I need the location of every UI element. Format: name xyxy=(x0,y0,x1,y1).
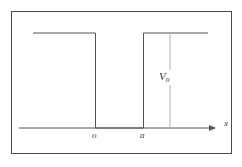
potential-depth-label: Vo xyxy=(157,70,171,85)
x-axis-label: x xyxy=(224,119,228,128)
potential-subscript: o xyxy=(166,75,170,84)
potential-well-figure: o a x Vo xyxy=(0,0,242,167)
potential-curve xyxy=(33,33,208,128)
x-tick-label-origin: o xyxy=(92,131,97,140)
x-tick-label-a: a xyxy=(140,131,145,140)
potential-well-plot xyxy=(0,0,242,167)
potential-symbol: V xyxy=(159,70,166,82)
